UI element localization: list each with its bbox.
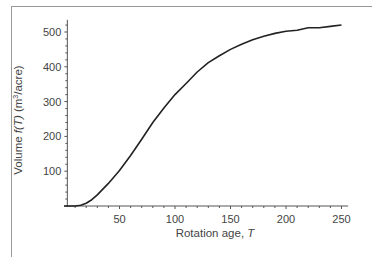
x-tick-label: 200: [277, 213, 295, 225]
x-tick-label: 50: [113, 213, 125, 225]
x-tick-label: 150: [221, 213, 239, 225]
y-tick-label: 400: [43, 61, 61, 73]
axes: 10020030040050050100150200250: [43, 20, 351, 225]
y-tick-label: 100: [43, 165, 61, 177]
y-tick-label: 500: [43, 26, 61, 38]
y-axis-label: Volume f(T) (m3/acre): [12, 65, 24, 175]
x-tick-label: 100: [166, 213, 184, 225]
y-tick-label: 200: [43, 130, 61, 142]
y-tick-label: 300: [43, 96, 61, 108]
x-tick-label: 250: [332, 213, 350, 225]
volume-curve: [64, 25, 342, 206]
x-axis-label: Rotation age, T: [176, 227, 256, 239]
